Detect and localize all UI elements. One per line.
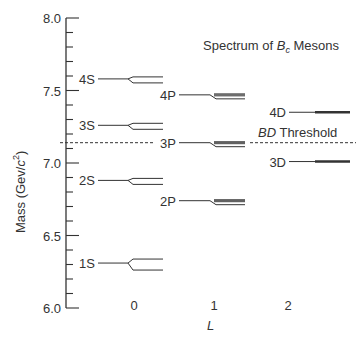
x-tick-label: 0: [130, 298, 137, 313]
level-2S: 2S: [79, 173, 163, 188]
level-1S: 1S: [79, 256, 163, 271]
chart-title: Spectrum of Bc Mesons: [203, 38, 340, 55]
level-label: 4S: [79, 72, 95, 87]
level-label: 3S: [79, 118, 95, 133]
level-label: 2S: [79, 173, 95, 188]
level-2P: 2P: [160, 194, 245, 209]
y-tick-label: 8.0: [43, 11, 61, 26]
y-tick-label: 7.0: [43, 156, 61, 171]
level-4P: 4P: [160, 88, 245, 103]
y-tick-label: 6.5: [43, 229, 61, 244]
level-lines: 1S2S3S4S2P3P4P3D4D: [79, 72, 350, 271]
x-tick-label: 1: [210, 298, 217, 313]
level-label: 4P: [160, 88, 176, 103]
level-label: 2P: [160, 194, 176, 209]
level-3D: 3D: [269, 155, 350, 170]
y-axis: 6.06.57.07.58.0: [43, 11, 79, 316]
y-tick-label: 7.5: [43, 84, 61, 99]
level-label: 4D: [269, 105, 286, 120]
x-tick-labels: 012: [130, 298, 291, 313]
threshold-label: BD Threshold: [258, 125, 337, 140]
level-4S: 4S: [79, 72, 163, 87]
y-axis-label: Mass (Gev/c2): [11, 151, 28, 233]
level-label: 3D: [269, 155, 286, 170]
level-3S: 3S: [79, 118, 163, 133]
level-4D: 4D: [269, 105, 350, 120]
x-tick-label: 2: [284, 298, 291, 313]
level-label: 1S: [79, 256, 95, 271]
y-tick-label: 6.0: [43, 301, 61, 316]
level-3P: 3P: [160, 136, 245, 151]
spectrum-chart: 6.06.57.07.58.0 1S2S3S4S2P3P4P3D4D Spect…: [0, 0, 364, 353]
x-axis-label: L: [207, 318, 214, 333]
level-label: 3P: [160, 136, 176, 151]
